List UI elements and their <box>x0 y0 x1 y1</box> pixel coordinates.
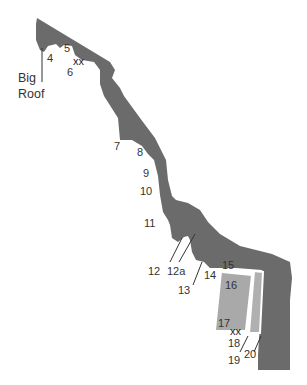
feature-label-roof: Roof <box>18 86 44 102</box>
route-label-4: 4 <box>47 53 53 64</box>
route-label-13: 13 <box>178 285 190 296</box>
route-label-20: 20 <box>244 349 256 360</box>
anchor-mark-top: xx <box>73 56 84 67</box>
route-12-pointer <box>170 238 182 262</box>
anchor-mark-bottom: xx <box>230 326 241 337</box>
route-label-8: 8 <box>137 147 143 158</box>
route-label-16: 16 <box>225 280 237 291</box>
route-label-10: 10 <box>140 186 152 197</box>
route-label-5: 5 <box>64 43 70 54</box>
route-label-19: 19 <box>228 355 240 366</box>
route-label-15: 15 <box>222 260 234 271</box>
route-label-17: 17 <box>218 318 230 329</box>
route-label-7: 7 <box>114 141 120 152</box>
feature-label-big: Big <box>18 70 36 86</box>
route-label-12: 12 <box>148 266 160 277</box>
route-label-6: 6 <box>67 67 73 78</box>
route-label-9: 9 <box>143 168 149 179</box>
route-13-pointer <box>193 262 202 285</box>
route-label-18: 18 <box>228 338 240 349</box>
route-label-11: 11 <box>144 218 155 229</box>
route-label-12a: 12a <box>167 266 185 277</box>
route-label-14: 14 <box>204 270 216 281</box>
